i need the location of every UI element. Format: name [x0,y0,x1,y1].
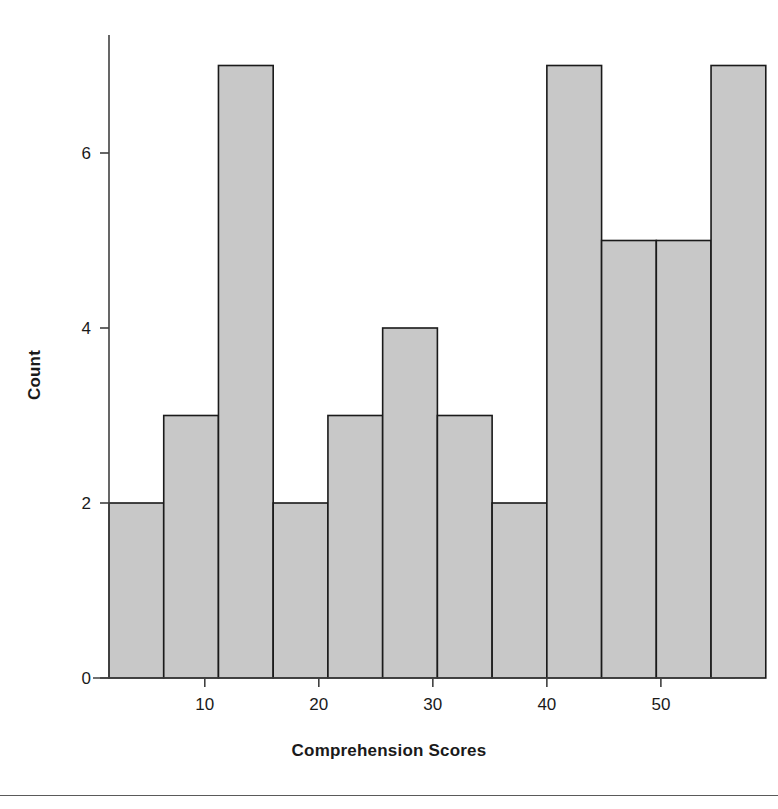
histogram-bar [109,503,164,678]
y-tick-label: 6 [82,144,91,163]
x-axis-title: Comprehension Scores [0,741,778,761]
histogram-bar [164,416,219,679]
x-tick-label: 50 [651,695,670,714]
y-tick-label: 4 [82,319,91,338]
histogram-bar [437,416,492,679]
histogram-bar [602,241,657,679]
x-tick-label: 30 [423,695,442,714]
x-tick-label: 40 [537,695,556,714]
footer-divider [0,795,778,796]
y-axis-title: Count [25,330,45,420]
histogram-plot: 02461020304050 [0,0,778,809]
histogram-bar [273,503,328,678]
bars-group [109,66,766,679]
y-tick-label: 0 [82,669,91,688]
histogram-bar [656,241,711,679]
histogram-bar [711,66,766,679]
histogram-bar [218,66,273,679]
x-tick-label: 20 [309,695,328,714]
histogram-bar [547,66,602,679]
histogram-figure: 02461020304050 Comprehension Scores Coun… [0,0,778,809]
x-tick-label: 10 [195,695,214,714]
histogram-bar [383,328,438,678]
histogram-bar [328,416,383,679]
y-tick-label: 2 [82,494,91,513]
histogram-bar [492,503,547,678]
